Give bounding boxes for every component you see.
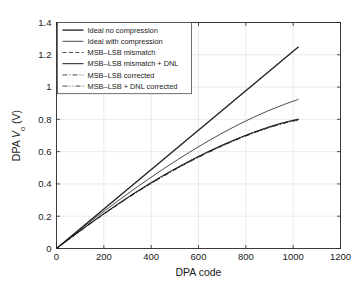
ytick-label: 0.4 [38, 178, 51, 189]
dpa-transfer-curve-plot: 02004006008001000120000.20.40.60.811.21.… [0, 0, 364, 293]
ytick-label: 1.2 [38, 49, 51, 60]
legend-label-5[interactable]: MSB–LSB + DNL corrected [88, 82, 178, 91]
ytick-label: 1.4 [38, 17, 51, 28]
xtick-label: 400 [143, 251, 159, 262]
series-line-1 [57, 99, 299, 248]
legend-label-1[interactable]: Ideal with compression [88, 37, 163, 46]
legend-label-2[interactable]: MSB–LSB mismatch [88, 48, 156, 57]
ytick-label: 0.2 [38, 211, 51, 222]
ytick-label: 1 [46, 81, 51, 92]
y-axis-title: DPA Vo (V) [10, 110, 27, 161]
xtick-label: 200 [96, 251, 112, 262]
ytick-label: 0.8 [38, 114, 51, 125]
legend-label-0[interactable]: Ideal no compression [88, 26, 158, 35]
xtick-label: 1000 [283, 251, 304, 262]
x-axis-title: DPA code [176, 266, 222, 278]
xtick-label: 600 [191, 251, 207, 262]
xtick-label: 800 [238, 251, 254, 262]
xtick-label: 0 [54, 251, 59, 262]
ytick-label: 0 [46, 243, 51, 254]
xtick-label: 1200 [330, 251, 351, 262]
legend-label-3[interactable]: MSB–LSB mismatch + DNL [88, 59, 179, 68]
chart-figure: 02004006008001000120000.20.40.60.811.21.… [0, 0, 364, 293]
legend-label-4[interactable]: MSB–LSB corrected [88, 71, 155, 80]
legend[interactable]: Ideal no compressionIdeal with compressi… [58, 23, 192, 94]
ytick-label: 0.6 [38, 146, 51, 157]
series-line-4 [57, 120, 299, 249]
